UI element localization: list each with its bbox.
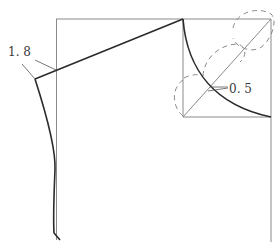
dashed-arc-lower (174, 80, 183, 116)
guide-lines (56, 19, 271, 242)
dashed-arc-top (233, 10, 274, 49)
leader-1-8-b (22, 64, 35, 79)
leader-1-8-a (35, 60, 56, 70)
leader-lines (22, 60, 228, 91)
shoulder-line (35, 19, 183, 79)
shoulder-offset-label: 1. 8 (8, 45, 31, 59)
curve-offset-label: 0. 5 (229, 82, 252, 96)
construction-arcs (174, 10, 274, 116)
pattern-diagram: 1. 8 0. 5 (0, 0, 276, 249)
dashed-arc-lower-b (184, 75, 201, 78)
pattern-lines (35, 19, 271, 240)
leader-0-5-b (208, 88, 228, 91)
